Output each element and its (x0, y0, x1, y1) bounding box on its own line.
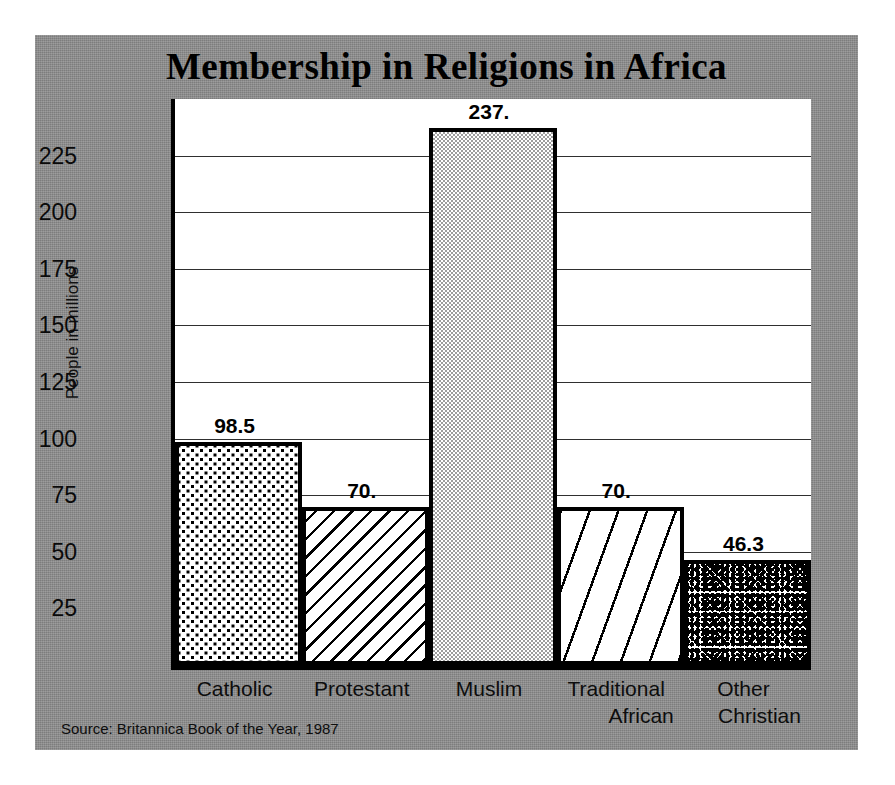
bar-muslim[interactable] (429, 128, 556, 665)
chart-title: Membership in Religions in Africa (35, 45, 858, 88)
bar-other-christian[interactable] (684, 560, 811, 665)
bar-value-label: 98.5 (171, 414, 298, 438)
bar-value-label: 70. (553, 479, 680, 503)
y-axis-tick-label: 150 (0, 314, 77, 337)
x-axis-category-label: Muslim (425, 676, 552, 703)
x-axis-baseline (171, 665, 811, 670)
bar-value-label: 70. (298, 479, 425, 503)
bar-value-label: 237. (425, 100, 552, 124)
y-axis-tick-label: 200 (0, 201, 77, 224)
y-axis-tick-label: 75 (0, 484, 77, 507)
bar-value-label: 46.3 (680, 532, 807, 556)
y-axis-tick-label: 125 (0, 371, 77, 394)
x-axis-category-label: TraditionalAfrican (553, 676, 680, 730)
source-note: Source: Britannica Book of the Year, 198… (61, 720, 339, 737)
x-axis-category-label: Protestant (298, 676, 425, 703)
x-axis-category-label-line2: Christian (680, 703, 807, 730)
bar-protestant[interactable] (302, 507, 429, 665)
x-axis-category-label: OtherChristian (680, 676, 807, 730)
y-axis-tick-label: 175 (0, 257, 77, 280)
y-axis-tick-label: 50 (0, 540, 77, 563)
bar-traditional-african[interactable] (557, 507, 684, 665)
y-axis-tick-label: 25 (0, 597, 77, 620)
x-axis-category-label: Catholic (171, 676, 298, 703)
bar-catholic[interactable] (175, 442, 302, 665)
plot-area (171, 99, 811, 665)
chart-figure-panel: Membership in Religions in Africa People… (35, 35, 858, 750)
y-axis-tick-label: 100 (0, 427, 77, 450)
x-axis-category-label-line2: African (553, 703, 680, 730)
y-axis-tick-label: 225 (0, 144, 77, 167)
